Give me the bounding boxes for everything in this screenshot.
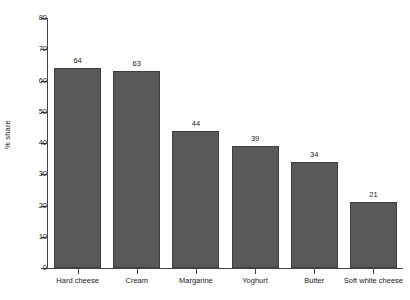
plot-area: 646344393421 [48, 18, 403, 268]
bar-chart: % share 01020304050607080 646344393421 H… [0, 0, 410, 300]
bar[interactable] [232, 146, 279, 268]
x-axis-tick [196, 269, 197, 274]
bar[interactable] [54, 68, 101, 268]
bar-group[interactable]: 39 [226, 18, 285, 268]
bar-group[interactable]: 64 [48, 18, 107, 268]
x-axis-tick [314, 269, 315, 274]
x-axis-category-label: Soft white cheese [338, 276, 409, 285]
y-axis-tick-label: 40 [11, 139, 47, 147]
y-axis-tick-label: 20 [11, 202, 47, 210]
y-axis-tick-label: 30 [11, 170, 47, 178]
bar[interactable] [291, 162, 338, 268]
x-axis-line [47, 268, 403, 269]
y-axis-tick-label: 10 [11, 233, 47, 241]
bar-value-label: 39 [226, 135, 285, 143]
y-axis-tick-label: 60 [11, 77, 47, 85]
y-axis-ticks: 01020304050607080 [0, 0, 47, 300]
y-axis-tick-label: 70 [11, 45, 47, 53]
bar-group[interactable]: 21 [344, 18, 403, 268]
bar-value-label: 64 [48, 57, 107, 65]
bar-value-label: 21 [344, 191, 403, 199]
y-axis-tick-label: 0 [11, 264, 47, 272]
bar-group[interactable]: 44 [166, 18, 225, 268]
bar[interactable] [172, 131, 219, 269]
bar-value-label: 44 [166, 120, 225, 128]
bar[interactable] [113, 71, 160, 268]
x-axis-tick [373, 269, 374, 274]
y-axis-tick-label: 80 [11, 14, 47, 22]
bar-group[interactable]: 63 [107, 18, 166, 268]
bar-group[interactable]: 34 [285, 18, 344, 268]
bar-value-label: 34 [285, 151, 344, 159]
y-axis-tick-label: 50 [11, 108, 47, 116]
x-axis-tick [255, 269, 256, 274]
x-axis-tick [137, 269, 138, 274]
x-axis-tick [78, 269, 79, 274]
bar[interactable] [350, 202, 397, 268]
bar-value-label: 63 [107, 60, 166, 68]
